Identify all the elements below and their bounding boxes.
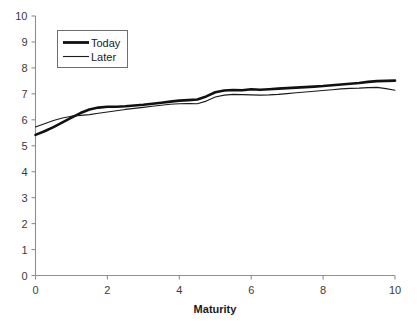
y-tick-label: 10 [15, 10, 27, 22]
x-tick-label: 6 [248, 284, 254, 296]
x-tick-label: 2 [104, 284, 110, 296]
y-tick-label: 9 [21, 36, 27, 48]
y-tick-label: 7 [21, 88, 27, 100]
x-tick-label: 8 [320, 284, 326, 296]
x-tick-label: 10 [389, 284, 401, 296]
line-chart: 012345678910 0246810 Today Later Maturit… [0, 0, 420, 325]
legend-label-later: Later [91, 51, 116, 63]
chart-page: 012345678910 0246810 Today Later Maturit… [0, 0, 420, 325]
y-tick-label: 4 [21, 166, 27, 178]
legend-label-today: Today [91, 37, 121, 49]
y-tick-label: 8 [21, 62, 27, 74]
x-tick-label: 0 [32, 284, 38, 296]
y-tick-label: 2 [21, 218, 27, 230]
x-axis-title: Maturity [194, 303, 238, 315]
y-tick-label: 6 [21, 114, 27, 126]
y-tick-label: 3 [21, 192, 27, 204]
y-tick-label: 0 [21, 270, 27, 282]
x-tick-label: 4 [176, 284, 182, 296]
y-tick-label: 1 [21, 244, 27, 256]
legend: Today Later [58, 31, 128, 68]
y-tick-label: 5 [21, 140, 27, 152]
